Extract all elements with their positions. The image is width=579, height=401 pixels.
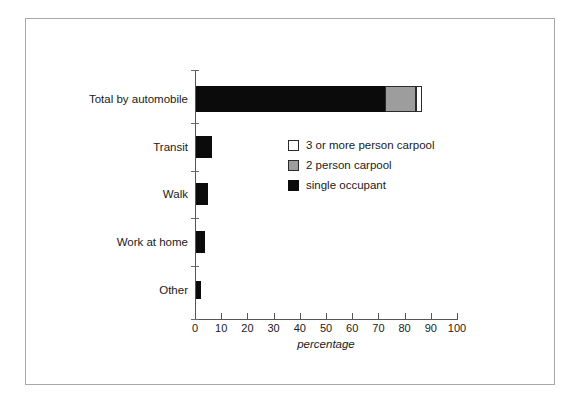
x-axis-tick-label: 100 [437,322,477,335]
legend-swatch-single [288,180,299,191]
legend-item: single occupant [288,175,434,195]
bar-segment [196,183,208,205]
plot-area: 0102030405060708090100 Total by automobi… [26,19,556,386]
y-axis-category-label: Walk [163,188,188,200]
legend-swatch-two [288,160,299,171]
legend-label: 2 person carpool [306,159,392,171]
figure-frame: 0102030405060708090100 Total by automobi… [25,18,555,385]
x-axis-tick [247,313,248,320]
legend-swatch-three [288,140,299,151]
bar-segment [196,136,212,158]
bar-row [196,281,458,299]
x-axis-tick [405,313,406,320]
x-axis-tick [457,313,458,320]
bar-segment [416,86,422,112]
bar-row [196,86,458,112]
legend-item: 2 person carpool [288,155,434,175]
bar-row [196,231,458,253]
legend-label: 3 or more person carpool [306,139,434,151]
y-axis-category-label: Total by automobile [89,93,188,105]
x-axis-tick [431,313,432,320]
x-axis-tick [326,313,327,320]
bar-segment [196,86,385,112]
y-axis-tick [191,218,199,219]
legend-label: single occupant [306,179,386,191]
y-axis-tick [191,171,199,172]
bar-segment [385,86,415,112]
y-axis-tick [191,266,199,267]
x-axis-tick [221,313,222,320]
x-axis-tick [274,313,275,320]
chart-legend: 3 or more person carpool2 person carpool… [288,135,434,195]
y-axis-category-label: Transit [153,141,188,153]
y-axis-category-label: Work at home [117,236,188,248]
x-axis-title: percentage [195,338,457,350]
y-axis-tick [191,70,199,71]
y-axis-tick [191,319,199,320]
y-axis-tick [191,123,199,124]
y-axis-category-label: Other [159,284,188,296]
bar-segment [196,231,205,253]
x-axis-tick [300,313,301,320]
x-axis-tick [378,313,379,320]
x-axis-tick [352,313,353,320]
bar-segment [196,281,201,299]
legend-item: 3 or more person carpool [288,135,434,155]
